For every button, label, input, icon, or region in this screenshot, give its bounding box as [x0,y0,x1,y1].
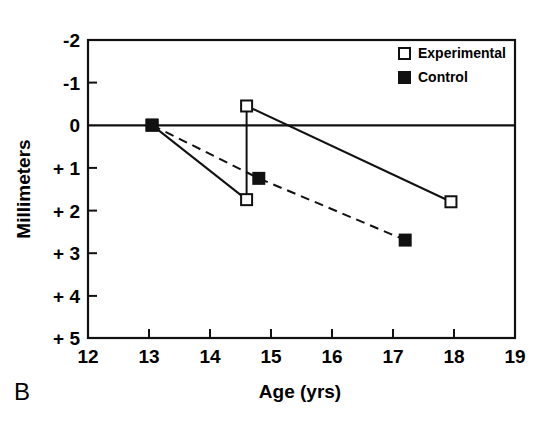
x-axis-title: Age (yrs) [259,381,341,402]
legend-filled-square-icon [399,72,410,83]
series-control [147,120,411,246]
x-tick-label: 19 [504,346,525,367]
x-tick-label: 12 [77,346,98,367]
legend-label-experimental: Experimental [418,45,506,61]
y-tick-label: + 2 [53,201,80,222]
x-tick-label: 14 [199,346,221,367]
series-experimental [147,100,457,207]
series-segment-control-trend [152,125,405,240]
x-axis-tick-labels: 12 13 14 15 16 17 18 19 [77,346,525,367]
data-point-marker [241,100,252,111]
data-point-marker [400,235,411,246]
y-axis-ticks [88,83,97,296]
chart-legend: Experimental Control [399,45,506,85]
series-segment-post-treatment [247,106,451,202]
y-tick-label: + 1 [53,158,80,179]
chart-figure: -2 -1 0 + 1 + 2 + 3 + 4 + 5 Millimeters [0,0,553,425]
x-tick-label: 18 [443,346,464,367]
x-tick-label: 13 [138,346,159,367]
y-tick-label: -1 [63,73,80,94]
y-tick-label: + 5 [53,328,80,349]
y-tick-label: 0 [69,115,80,136]
x-tick-label: 17 [382,346,403,367]
data-point-marker [253,173,264,184]
legend-label-control: Control [418,69,468,85]
series-segment-pre-treatment [152,125,247,199]
data-point-marker [241,194,252,205]
data-series-layer [147,100,457,245]
x-tick-label: 15 [260,346,282,367]
y-axis-title: Millimeters [13,139,34,238]
legend-open-square-icon [399,48,410,59]
y-tick-label: -2 [63,30,80,51]
chart-canvas: -2 -1 0 + 1 + 2 + 3 + 4 + 5 Millimeters [0,0,553,425]
x-tick-label: 16 [321,346,342,367]
x-axis-ticks [149,329,454,338]
data-point-marker [445,196,456,207]
y-axis-tick-labels: -2 -1 0 + 1 + 2 + 3 + 4 + 5 [53,30,80,349]
y-tick-label: + 4 [53,286,80,307]
y-tick-label: + 3 [53,243,80,264]
data-point-marker [147,120,158,131]
panel-label: B [14,378,30,405]
